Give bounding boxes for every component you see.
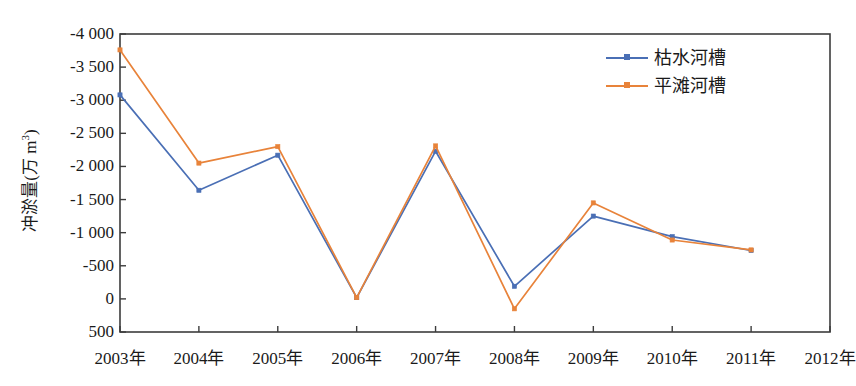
series-line-1: [120, 95, 751, 298]
x-axis-ticks: [120, 326, 830, 332]
legend-marker-icon: [624, 82, 630, 88]
series-marker: [197, 188, 201, 192]
legend-line-icon: [606, 51, 648, 65]
series-marker: [512, 284, 516, 288]
series-marker: [355, 296, 359, 300]
legend-marker-icon: [624, 54, 630, 60]
series-marker: [197, 161, 201, 165]
legend-item-label: 枯水河槽: [654, 49, 726, 67]
legend-item[interactable]: 枯水河槽: [606, 44, 756, 72]
series-marker: [276, 145, 280, 149]
series-marker: [434, 144, 438, 148]
chart-figure: 冲淤量(万 m3) -4 000-3 500-3 000-2 500-2 000…: [0, 0, 856, 386]
chart-legend: 枯水河槽平滩河槽: [606, 44, 756, 100]
series-marker: [591, 201, 595, 205]
series-marker: [670, 238, 674, 242]
series-marker: [749, 248, 753, 252]
series-marker: [118, 48, 122, 52]
legend-line-icon: [606, 79, 648, 93]
series-marker: [591, 214, 595, 218]
y-axis-ticks: [120, 34, 126, 332]
series-marker: [118, 93, 122, 97]
series-marker: [512, 307, 516, 311]
legend-item[interactable]: 平滩河槽: [606, 72, 756, 100]
series-marker: [276, 153, 280, 157]
legend-item-label: 平滩河槽: [654, 77, 726, 95]
